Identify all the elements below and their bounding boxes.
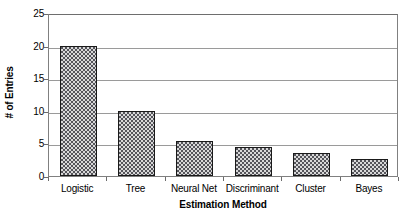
- y-axis-tick-mark: [44, 79, 48, 80]
- bar-logistic: [60, 46, 97, 176]
- y-axis-tick-mark: [44, 144, 48, 145]
- x-axis-tick-mark: [223, 177, 224, 181]
- y-axis-tick-mark: [44, 112, 48, 113]
- plot-area: [48, 14, 398, 177]
- x-axis-tick-marks: [48, 177, 398, 182]
- y-axis-tick-labels: 0510152025: [14, 0, 44, 221]
- y-axis-tick-label: 0: [18, 172, 44, 182]
- bar-chart: # of Entries 0510152025 LogisticTreeNeur…: [0, 0, 414, 221]
- y-axis-tick-label: 20: [18, 42, 44, 52]
- x-axis-tick-mark: [106, 177, 107, 181]
- y-axis-tick-label: 10: [18, 107, 44, 117]
- x-axis-tick-mark: [165, 177, 166, 181]
- x-axis-tick-label: Bayes: [334, 183, 404, 195]
- x-axis-tick-mark: [398, 177, 399, 181]
- bar-tree: [118, 111, 155, 176]
- bar-cluster: [293, 153, 330, 176]
- x-axis-tick-mark: [48, 177, 49, 181]
- x-axis-tick-mark: [281, 177, 282, 181]
- y-axis-tick-mark: [44, 177, 48, 178]
- y-axis-tick-label: 5: [18, 139, 44, 149]
- y-axis-tick-mark: [44, 47, 48, 48]
- x-axis-tick-mark: [340, 177, 341, 181]
- x-axis-title: Estimation Method: [48, 199, 398, 211]
- bar-bayes: [351, 159, 388, 176]
- bars-layer: [49, 15, 397, 176]
- y-axis-tick-label: 25: [18, 9, 44, 19]
- bar-neural-net: [176, 141, 213, 176]
- bar-discriminant: [235, 147, 272, 176]
- y-axis-tick-mark: [44, 14, 48, 15]
- y-axis-tick-label: 15: [18, 74, 44, 84]
- x-axis-tick-labels: LogisticTreeNeural NetDiscriminantCluste…: [48, 183, 398, 197]
